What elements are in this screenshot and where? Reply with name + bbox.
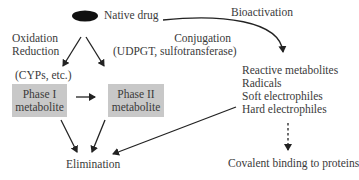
hard-electrophiles-label: Hard electrophiles — [242, 103, 327, 116]
arrow-to-phase2 — [86, 37, 104, 66]
reactive-metabolites-label: Reactive metabolites — [242, 64, 338, 77]
arrow-to-phase1 — [63, 37, 81, 66]
conjugation-enzymes-label: (UDPGT, sulfotransferase) — [113, 45, 237, 58]
phase1-metabolite-box: Phase I metabolite — [12, 84, 67, 117]
conjugation-label: Conjugation — [145, 32, 231, 45]
bioactivation-label: Bioactivation — [231, 6, 293, 19]
reduction-label: Reduction — [12, 45, 59, 58]
arrow-phase2-to-elimination — [92, 120, 105, 152]
radicals-label: Radicals — [242, 77, 282, 90]
phase1-box-line1: Phase I — [12, 88, 67, 101]
phase2-box-line2: metabolite — [108, 101, 164, 114]
phase2-metabolite-box: Phase II metabolite — [108, 84, 164, 117]
oxidation-label: Oxidation — [12, 32, 58, 45]
arrow-phase1-to-elimination — [61, 120, 77, 152]
phase2-box-line1: Phase II — [108, 88, 164, 101]
native-drug-label: Native drug — [104, 9, 159, 22]
phase1-box-line2: metabolite — [12, 101, 67, 114]
covalent-binding-label: Covalent binding to proteins — [228, 157, 359, 170]
native-drug-ellipse-icon — [72, 11, 98, 22]
elimination-label: Elimination — [66, 158, 120, 171]
soft-electrophiles-label: Soft electrophiles — [242, 90, 323, 103]
cyps-label: (CYPs, etc.) — [15, 69, 72, 82]
